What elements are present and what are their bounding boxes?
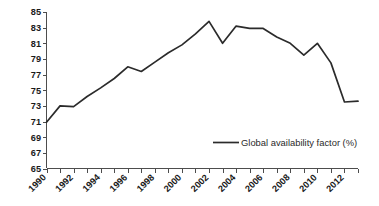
- y-tick-label: 69: [31, 133, 41, 143]
- x-tick-label: 2004: [216, 172, 238, 194]
- x-axis-tick-labels: 1990199219941996199820002002200420062008…: [26, 172, 345, 194]
- x-tick-label: 1998: [135, 172, 157, 194]
- x-tick-label: 2010: [297, 172, 319, 194]
- x-tick-label: 2006: [243, 172, 265, 194]
- x-tick-label: 2002: [189, 172, 211, 194]
- x-tick-label: 2008: [270, 172, 292, 194]
- y-tick-label: 79: [31, 54, 41, 64]
- y-tick-label: 77: [31, 70, 41, 80]
- y-axis-tick-labels: 6567697173757779818385: [31, 7, 41, 174]
- y-tick-label: 81: [31, 39, 41, 49]
- y-tick-label: 83: [31, 23, 41, 33]
- line-chart: 6567697173757779818385 19901992199419961…: [0, 0, 379, 206]
- y-tick-label: 67: [31, 148, 41, 158]
- x-tick-label: 1992: [53, 172, 75, 194]
- y-axis-tick-marks: [43, 13, 47, 170]
- x-tick-label: 1994: [81, 172, 103, 194]
- y-tick-label: 75: [31, 86, 41, 96]
- y-tick-label: 71: [31, 117, 41, 127]
- legend-label: Global availability factor (%): [241, 137, 357, 148]
- y-tick-label: 85: [31, 7, 41, 17]
- x-tick-label: 2000: [162, 172, 184, 194]
- chart-canvas: 6567697173757779818385 19901992199419961…: [0, 0, 379, 206]
- x-tick-label: 2012: [324, 172, 346, 194]
- y-tick-label: 73: [31, 101, 41, 111]
- data-series-line: [47, 21, 359, 122]
- x-tick-label: 1996: [108, 172, 130, 194]
- x-tick-label: 1990: [26, 172, 48, 194]
